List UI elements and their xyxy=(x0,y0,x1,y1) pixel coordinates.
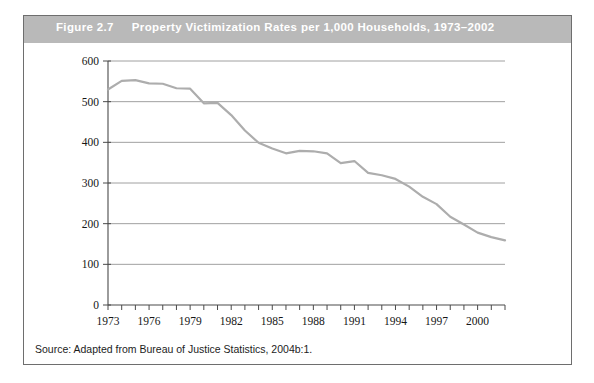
ytick-label-0: 0 xyxy=(93,299,99,311)
xtick-label-1973: 1973 xyxy=(97,315,120,327)
xtick-label-1994: 1994 xyxy=(384,315,407,327)
ytick-label-200: 200 xyxy=(82,218,100,230)
xtick-label-1979: 1979 xyxy=(179,315,202,327)
figure-frame: Figure 2.7Property Victimization Rates p… xyxy=(23,15,572,365)
ytick-label-600: 600 xyxy=(82,55,100,67)
ytick-label-500: 500 xyxy=(82,96,100,108)
figure-number: Figure 2.7 xyxy=(56,21,114,33)
xtick-label-1985: 1985 xyxy=(261,315,284,327)
source-note: Source: Adapted from Bureau of Justice S… xyxy=(35,343,312,355)
figure-header-band: Figure 2.7Property Victimization Rates p… xyxy=(24,16,571,43)
page-title: Property Victimization Rates per 1,000 H… xyxy=(132,21,495,33)
ytick-label-300: 300 xyxy=(82,177,100,189)
ytick-label-100: 100 xyxy=(82,258,100,270)
xtick-label-2000: 2000 xyxy=(466,315,489,327)
line-chart-svg: 0100200300400500600197319761979198219851… xyxy=(24,43,573,338)
ytick-label-400: 400 xyxy=(82,136,100,148)
xtick-label-1997: 1997 xyxy=(425,315,448,327)
xtick-label-1982: 1982 xyxy=(220,315,243,327)
chart-plot-area: 0100200300400500600197319761979198219851… xyxy=(24,43,571,338)
figure-header-title: Figure 2.7Property Victimization Rates p… xyxy=(56,21,495,33)
xtick-label-1988: 1988 xyxy=(302,315,325,327)
data-series-line xyxy=(108,80,505,240)
xtick-label-1976: 1976 xyxy=(138,315,161,327)
xtick-label-1991: 1991 xyxy=(343,315,366,327)
